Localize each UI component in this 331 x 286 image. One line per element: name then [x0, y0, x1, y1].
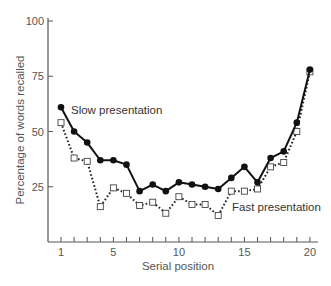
slow-presentation-marker — [176, 179, 183, 186]
x-tick-label: 15 — [238, 246, 250, 258]
fast-presentation-line — [61, 72, 310, 216]
slow-presentation-marker — [97, 157, 104, 164]
slow-presentation-marker — [254, 179, 261, 186]
slow-presentation-marker — [294, 119, 301, 126]
chart-canvas: 25507510015101520 Serial position Percen… — [0, 0, 331, 286]
slow-presentation-line — [61, 70, 310, 192]
slow-presentation-marker — [202, 183, 209, 190]
slow-presentation-marker — [307, 66, 314, 73]
slow-presentation-marker — [215, 186, 222, 193]
y-tick-label: 100 — [26, 15, 44, 27]
fast-presentation-marker — [268, 164, 274, 170]
fast-presentation-marker — [124, 190, 130, 196]
fast-presentation-marker — [215, 212, 221, 218]
slow-presentation-marker — [163, 188, 170, 195]
slow-presentation-marker — [71, 128, 78, 135]
slow-presentation-marker — [241, 164, 248, 171]
x-tick-label: 1 — [58, 246, 64, 258]
slow-presentation-marker — [110, 157, 117, 164]
y-axis-title: Percentage of words recalled — [14, 56, 26, 205]
fast-presentation-marker — [228, 188, 234, 194]
x-tick-label: 10 — [173, 246, 185, 258]
axes: 25507510015101520 — [26, 15, 318, 258]
y-tick-label: 50 — [32, 126, 44, 138]
x-axis-title: Serial position — [142, 260, 214, 272]
y-tick-label: 75 — [32, 70, 44, 82]
fast-presentation-marker — [241, 188, 247, 194]
fast-presentation-marker — [255, 186, 261, 192]
slow-presentation-marker — [267, 155, 274, 162]
slow-presentation-marker — [123, 161, 130, 168]
fast-presentation-marker — [189, 201, 195, 207]
fast-presentation-marker — [202, 201, 208, 207]
series-layer — [58, 66, 314, 218]
fast-presentation-marker — [97, 204, 103, 210]
x-tick-label: 5 — [110, 246, 116, 258]
fast-presentation-label: Fast presentation — [232, 201, 321, 213]
slow-presentation-marker — [84, 139, 91, 146]
x-tick-label: 20 — [304, 246, 316, 258]
fast-presentation-marker — [281, 159, 287, 165]
slow-presentation-label: Slow presentation — [71, 104, 162, 116]
fast-presentation-marker — [58, 120, 64, 126]
fast-presentation-marker — [176, 194, 182, 200]
slow-presentation-marker — [280, 148, 287, 155]
slow-presentation-marker — [228, 175, 235, 182]
fast-presentation-marker — [163, 210, 169, 216]
slow-presentation-marker — [136, 188, 143, 195]
fast-presentation-marker — [84, 158, 90, 164]
slow-presentation-marker — [189, 181, 196, 188]
slow-presentation-marker — [58, 104, 65, 111]
fast-presentation-marker — [71, 155, 77, 161]
y-tick-label: 25 — [32, 181, 44, 193]
labels: Serial position Percentage of words reca… — [14, 56, 321, 272]
slow-presentation-marker — [149, 181, 156, 188]
fast-presentation-marker — [137, 203, 143, 209]
fast-presentation-marker — [150, 199, 156, 205]
serial-position-chart: 25507510015101520 Serial position Percen… — [0, 0, 331, 286]
fast-presentation-marker — [110, 185, 116, 191]
